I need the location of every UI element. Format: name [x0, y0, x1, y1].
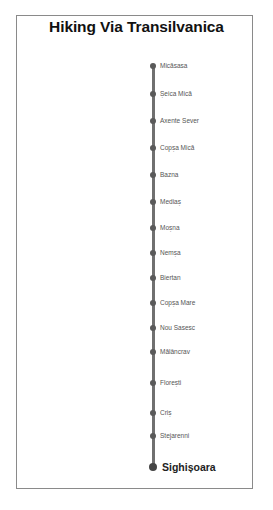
stop-label: Mediaș [160, 197, 181, 207]
stop-label: Copșa Mare [160, 298, 195, 308]
stop-label: Mălâncrav [160, 347, 190, 357]
stop-label: Șeica Mică [160, 89, 192, 99]
route-line [152, 66, 155, 467]
stop-dot-icon [149, 463, 157, 471]
stop-label: Stejarenni [160, 431, 189, 441]
stop-dot-icon [150, 225, 156, 231]
stop-dot-icon [150, 63, 156, 69]
stop-dot-icon [150, 349, 156, 355]
stop-dot-icon [150, 380, 156, 386]
stop-dot-icon [150, 91, 156, 97]
stop-label: Biertan [160, 273, 181, 283]
stop-label: Micăsasa [160, 61, 187, 71]
stop-label: Nou Sasesc [160, 323, 195, 333]
stop-dot-icon [150, 118, 156, 124]
stop-dot-icon [150, 300, 156, 306]
stop-label: Criș [160, 408, 172, 418]
stop-dot-icon [150, 410, 156, 416]
stop-dot-icon [150, 250, 156, 256]
stop-label: Copșa Mică [160, 143, 194, 153]
stop-label: Sighișoara [162, 460, 216, 474]
stop-dot-icon [150, 199, 156, 205]
stop-dot-icon [150, 433, 156, 439]
stop-label: Axente Sever [160, 116, 199, 126]
stop-label: Nemșa [160, 248, 181, 258]
stop-label: Florești [160, 378, 181, 388]
stop-dot-icon [150, 172, 156, 178]
stop-dot-icon [150, 145, 156, 151]
stop-dot-icon [150, 325, 156, 331]
stop-dot-icon [150, 275, 156, 281]
stop-label: Moșna [160, 223, 180, 233]
diagram-title: Hiking Via Transilvanica [0, 18, 273, 36]
stop-label: Bazna [160, 170, 178, 180]
diagram-frame [16, 15, 253, 489]
